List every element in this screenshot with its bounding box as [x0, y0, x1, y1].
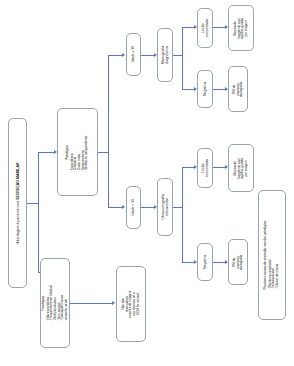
list-item: Serosa ou sanguinolenta — [85, 133, 89, 172]
edge-idade-menor-us — [141, 207, 154, 208]
node-mamografia-diagnostica[interactable]: Mamografia diagnóstica — [157, 28, 173, 82]
ultrassonografia-label: Ultrassonografia retroareolar — [161, 194, 169, 219]
edge-patologica-out — [98, 152, 108, 153]
fisiologica-heading: Fisiológica — [42, 285, 46, 321]
edge-lesao-sup-biopsia — [213, 27, 225, 28]
edge-lesao-inf-biopsia — [213, 167, 225, 168]
node-rm-mama-ductografia-superior[interactable]: RM da mama ou ductografia — [228, 66, 248, 112]
lesao-sup-label: Lesão encontrada — [201, 19, 209, 37]
arrow-idade-menor — [122, 205, 125, 209]
edge-to-lesao-sup — [182, 27, 194, 28]
lesao-inf-label: Lesão encontrada — [201, 159, 209, 177]
node-rm-mama-ductografia-inferior[interactable]: RM da mama ou ductografia — [228, 239, 248, 285]
sem-exames-label: Não são necessários exames de imagem nos… — [122, 290, 140, 318]
node-biopsia-fragmento-inferior[interactable]: Biopsia de fragmento com agulha, guiada … — [228, 144, 254, 192]
patologica-list: Espontânea Unilateral Ducto único Sangui… — [71, 133, 89, 172]
causas-list: Papiloma intraductal Ectasia ductal Cânc… — [269, 220, 280, 289]
node-lesao-encontrada-inferior[interactable]: Lesão encontrada — [197, 148, 213, 188]
node-fisiologica[interactable]: Fisiológica Não espontânea Frequentement… — [40, 258, 70, 348]
rm-inf-label: RM da mama ou ductografia — [233, 253, 244, 271]
edge-negativa-sup-rm — [213, 89, 225, 90]
edge-to-negativa-inf — [182, 262, 194, 263]
negativa-inf-label: Negativa — [203, 255, 207, 269]
node-root[interactable]: Abordagem à paciente com SECREÇÃO MAMILA… — [8, 118, 27, 288]
list-item: Câncer de mama — [276, 220, 280, 289]
edge-to-idade-maior — [108, 55, 122, 56]
node-negativa-inferior[interactable]: Negativa — [197, 243, 213, 281]
node-sem-exames-imagem[interactable]: Não são necessários exames de imagem nos… — [116, 266, 146, 342]
arrow-sem-exames — [112, 301, 115, 305]
edge-mamografia-split — [182, 27, 183, 89]
edge-to-idade-menor — [108, 207, 122, 208]
fisiologica-list: Não espontânea Frequentemente bilateral … — [46, 285, 68, 321]
node-negativa-superior[interactable]: Negativa — [197, 70, 213, 108]
node-possiveis-causas[interactable]: Possíveis causas de secreção mamilar pat… — [258, 190, 286, 320]
root-label-emphasis: SECREÇÃO MAMILAR — [15, 162, 19, 199]
idade-maior-label: Idade ≥ 30 — [131, 46, 135, 63]
edge-root-out — [27, 203, 38, 204]
rm-sup-label: RM da mama ou ductografia — [233, 80, 244, 98]
root-label-prefix: Abordagem à paciente com — [15, 200, 19, 244]
edge-to-lesao-inf — [182, 167, 194, 168]
negativa-sup-label: Negativa — [203, 82, 207, 96]
edge-negativa-inf-rm — [213, 262, 225, 263]
node-lesao-encontrada-superior[interactable]: Lesão encontrada — [197, 8, 213, 48]
edge-us-split — [182, 167, 183, 262]
node-biopsia-fragmento-superior[interactable]: Biopsia de fragmento com agulha, guiada … — [228, 5, 254, 51]
edge-mamografia-out — [173, 55, 182, 56]
flowchart-canvas: Abordagem à paciente com SECREÇÃO MAMILA… — [0, 0, 294, 366]
edge-fisiologica-sem-exames — [70, 303, 112, 304]
edge-us-out — [173, 207, 182, 208]
edge-root-split — [38, 152, 39, 272]
biopsia-inf-label: Biopsia de fragmento com agulha, guiada … — [234, 156, 249, 180]
edge-to-patologica — [38, 152, 54, 153]
node-patologica[interactable]: Patológica Espontânea Unilateral Ducto ú… — [57, 108, 98, 196]
edge-to-negativa-sup — [182, 89, 194, 90]
mamografia-label: Mamografia diagnóstica — [161, 46, 169, 64]
arrow-idade-maior — [122, 53, 125, 57]
node-idade-menor-30[interactable]: Idade < 30 — [126, 186, 141, 229]
edge-idade-maior-mamografia — [141, 55, 154, 56]
node-ultrassonografia-retroareolar[interactable]: Ultrassonografia retroareolar — [157, 178, 173, 236]
list-item-cont: amarela, verde — [65, 285, 69, 321]
biopsia-sup-label: Biopsia de fragmento com agulha, guiada … — [234, 16, 249, 40]
edge-age-split — [108, 55, 109, 207]
idade-menor-label: Idade < 30 — [131, 199, 135, 216]
node-idade-maior-30[interactable]: Idade ≥ 30 — [126, 33, 141, 76]
